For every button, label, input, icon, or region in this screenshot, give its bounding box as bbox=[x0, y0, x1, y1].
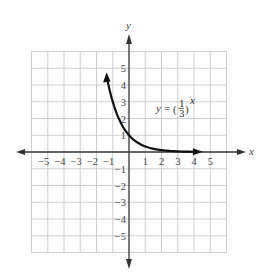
x-tick-label: 3 bbox=[175, 156, 180, 167]
y-tick-label: 5 bbox=[121, 63, 126, 74]
y-tick-label: −3 bbox=[115, 197, 126, 208]
y-tick-label: 3 bbox=[121, 97, 126, 108]
curve-arrow-right bbox=[193, 148, 203, 155]
equation-left-paren: ( bbox=[173, 103, 177, 116]
y-axis-down-arrow bbox=[126, 259, 132, 269]
equation-equals: = bbox=[164, 102, 170, 114]
x-tick-label: 2 bbox=[159, 156, 164, 167]
graph: −5−4−3−2−11234554321−1−2−3−4−5 y x y = (… bbox=[0, 0, 266, 279]
x-axis-left-arrow bbox=[16, 149, 25, 155]
y-axis-up-arrow bbox=[126, 34, 132, 44]
x-tick-label: 1 bbox=[143, 156, 148, 167]
equation-label: y = ( 1 3 ) x bbox=[155, 94, 195, 119]
x-axis-label: x bbox=[248, 145, 254, 157]
axes bbox=[16, 34, 246, 269]
curve-arrow-up bbox=[103, 73, 111, 83]
x-tick-label: 4 bbox=[191, 156, 197, 167]
y-tick-label: −5 bbox=[115, 231, 126, 242]
x-tick-label: −1 bbox=[103, 156, 114, 167]
x-axis-right-arrow bbox=[237, 149, 246, 155]
y-axis-label: y bbox=[125, 19, 131, 31]
x-tick-label: −4 bbox=[54, 156, 66, 167]
y-tick-label: 4 bbox=[121, 80, 127, 91]
equation-exponent: x bbox=[189, 94, 195, 106]
equation-right-paren: ) bbox=[185, 103, 189, 116]
y-tick-label: −4 bbox=[115, 214, 127, 225]
x-tick-label: 5 bbox=[208, 156, 213, 167]
y-tick-label: −2 bbox=[115, 181, 126, 192]
equation-y: y bbox=[155, 102, 161, 114]
x-tick-label: −5 bbox=[38, 156, 49, 167]
y-tick-label: −1 bbox=[115, 164, 126, 175]
x-tick-label: −2 bbox=[87, 156, 98, 167]
x-tick-label: −3 bbox=[71, 156, 82, 167]
